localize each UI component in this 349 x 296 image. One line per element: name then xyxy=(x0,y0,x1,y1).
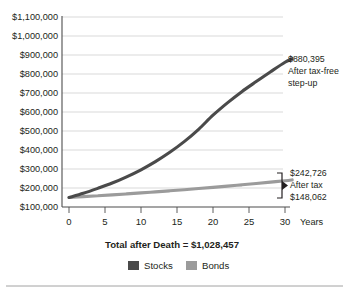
y-tick-label: $300,000 xyxy=(20,164,58,174)
legend-label-bonds: Bonds xyxy=(202,260,229,271)
bonds-annotation-amount: $242,726 xyxy=(290,168,327,178)
y-tick-label: $800,000 xyxy=(20,69,58,79)
bonds-annotation-line2: After tax xyxy=(290,180,323,190)
gridlines xyxy=(62,17,283,188)
legend-swatch-bonds xyxy=(186,261,197,270)
x-tick-label: 20 xyxy=(208,216,219,227)
y-tick-label: $600,000 xyxy=(20,107,58,117)
y-tick-label: $400,000 xyxy=(20,145,58,155)
chart-figure: $1,100,000 $1,000,000 $900,000 $800,000 … xyxy=(0,0,349,296)
x-tick-label: 30 xyxy=(280,216,291,227)
bonds-annotation: $242,726 After tax $148,062 xyxy=(290,168,327,202)
y-tick-label: $1,100,000 xyxy=(12,12,58,22)
y-tick-label: $1,000,000 xyxy=(12,31,58,41)
stocks-annotation-amount: $880,395 xyxy=(288,54,325,64)
x-axis-tick-labels: 0 5 10 15 20 25 30 xyxy=(66,216,290,227)
stocks-annotation-line2: After tax-free xyxy=(288,66,339,76)
x-axis-ticks xyxy=(69,207,285,213)
chart-caption: Total after Death = $1,028,457 xyxy=(105,239,239,250)
y-axis-tick-labels: $1,100,000 $1,000,000 $900,000 $800,000 … xyxy=(12,12,58,212)
y-tick-label: $700,000 xyxy=(20,88,58,98)
chart-legend: Stocks Bonds xyxy=(128,260,229,271)
x-tick-label: 0 xyxy=(66,216,71,227)
growth-comparison-chart: $1,100,000 $1,000,000 $900,000 $800,000 … xyxy=(0,0,349,296)
y-tick-label: $900,000 xyxy=(20,50,58,60)
bonds-bracket xyxy=(277,173,288,198)
legend-swatch-stocks xyxy=(128,261,139,270)
y-tick-label: $200,000 xyxy=(20,183,58,193)
bonds-annotation-line3: $148,062 xyxy=(290,192,327,202)
stocks-annotation-line3: step-up xyxy=(288,78,317,88)
series-line-stocks xyxy=(69,59,292,198)
x-tick-label: 25 xyxy=(244,216,255,227)
x-axis-title: Years xyxy=(300,217,324,227)
bracket-shape xyxy=(277,173,282,198)
x-tick-label: 15 xyxy=(172,216,183,227)
series-line-bonds xyxy=(69,180,292,198)
stocks-annotation: $880,395 After tax-free step-up xyxy=(288,54,339,88)
bracket-arrow-icon xyxy=(282,181,288,190)
y-tick-label: $100,000 xyxy=(20,202,58,212)
x-tick-label: 5 xyxy=(102,216,107,227)
x-tick-label: 10 xyxy=(136,216,147,227)
legend-label-stocks: Stocks xyxy=(144,260,173,271)
y-tick-label: $500,000 xyxy=(20,126,58,136)
